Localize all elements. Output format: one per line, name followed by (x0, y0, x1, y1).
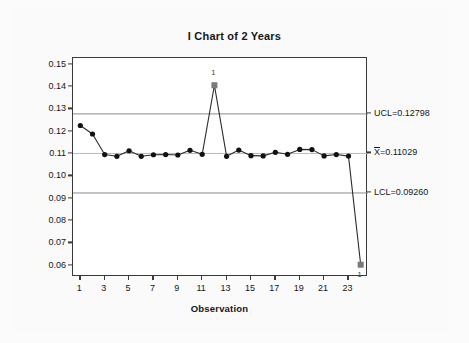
y-tick-mark (68, 63, 72, 64)
chart-canvas (73, 58, 368, 277)
x-tick-label: 7 (140, 283, 164, 293)
y-tick-mark (68, 85, 72, 86)
y-tick-label: 0.13 (26, 103, 66, 113)
data-point-marker (236, 147, 241, 152)
chart-title: I Chart of 2 Years (0, 30, 469, 42)
data-point-marker (78, 123, 83, 128)
data-point-marker (334, 152, 339, 157)
x-tick-label: 9 (165, 283, 189, 293)
x-tick-mark (128, 276, 129, 280)
y-tick-mark (68, 220, 72, 221)
data-point-marker (102, 152, 107, 157)
y-tick-label: 0.14 (26, 81, 66, 91)
x-tick-label: 21 (311, 283, 335, 293)
y-tick-mark (68, 242, 72, 243)
data-point-marker (126, 148, 131, 153)
ucl-label: UCL=0.12798 (374, 108, 430, 118)
x-tick-label: 11 (189, 283, 213, 293)
data-point-marker (175, 152, 180, 157)
violation-label: 1 (206, 68, 220, 77)
x-tick-mark (177, 276, 178, 280)
y-tick-label: 0.10 (26, 170, 66, 180)
data-point-marker (90, 131, 95, 136)
y-tick-label: 0.09 (26, 193, 66, 203)
data-point-marker (322, 153, 327, 158)
data-point-marker (114, 154, 119, 159)
x-tick-mark (201, 276, 202, 280)
y-tick-label: 0.08 (26, 215, 66, 225)
x-tick-mark (347, 276, 348, 280)
x-tick-mark (104, 276, 105, 280)
violation-label: 1 (353, 270, 367, 279)
plot-area (72, 57, 367, 276)
x-tick-label: 17 (262, 283, 286, 293)
data-point-marker (346, 154, 351, 159)
series-polyline (80, 85, 360, 264)
y-tick-label: 0.12 (26, 126, 66, 136)
x-tick-mark (299, 276, 300, 280)
violation-marker (358, 262, 364, 268)
y-tick-mark (68, 175, 72, 176)
x-tick-mark (323, 276, 324, 280)
y-tick-label: 0.11 (26, 148, 66, 158)
y-tick-mark (68, 108, 72, 109)
x-tick-label: 5 (116, 283, 140, 293)
data-point-marker (200, 152, 205, 157)
y-tick-mark (68, 152, 72, 153)
x-axis-title: Observation (72, 303, 367, 314)
data-point-marker (151, 152, 156, 157)
y-tick-label: 0.15 (26, 59, 66, 69)
x-tick-label: 3 (92, 283, 116, 293)
chart-page: I Chart of 2 Years Individual Value Obse… (0, 0, 469, 343)
x-tick-label: 15 (238, 283, 262, 293)
y-tick-label: 0.06 (26, 260, 66, 270)
data-point-marker (273, 150, 278, 155)
y-tick-mark (68, 264, 72, 265)
data-point-marker (297, 147, 302, 152)
data-point-marker (224, 154, 229, 159)
lcl-label: LCL=0.09260 (374, 187, 428, 197)
individual-value-line (80, 85, 360, 264)
y-tick-mark (68, 197, 72, 198)
x-tick-label: 23 (335, 283, 359, 293)
data-point-markers (78, 82, 364, 267)
x-tick-mark (152, 276, 153, 280)
data-point-marker (163, 152, 168, 157)
x-tick-label: 19 (287, 283, 311, 293)
data-point-marker (187, 148, 192, 153)
data-point-marker (139, 154, 144, 159)
x-tick-label: 1 (67, 283, 91, 293)
center-line-label: X=0.11029 (374, 147, 417, 157)
x-tick-mark (226, 276, 227, 280)
y-tick-label: 0.07 (26, 237, 66, 247)
x-tick-mark (274, 276, 275, 280)
x-tick-mark (250, 276, 251, 280)
violation-marker (211, 82, 217, 88)
limit-tick-mark (367, 152, 371, 153)
data-point-marker (309, 147, 314, 152)
data-point-marker (285, 152, 290, 157)
y-tick-mark (68, 130, 72, 131)
data-point-marker (261, 153, 266, 158)
data-point-marker (248, 153, 253, 158)
x-tick-mark (79, 276, 80, 280)
limit-tick-mark (367, 112, 371, 113)
limit-tick-mark (367, 191, 371, 192)
x-tick-label: 13 (214, 283, 238, 293)
